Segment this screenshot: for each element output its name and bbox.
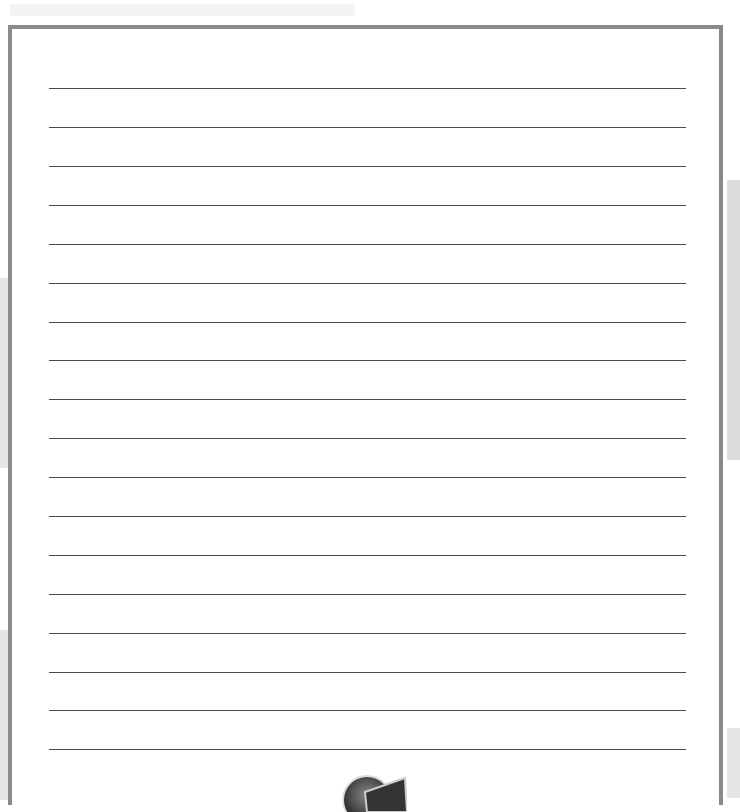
ruled-line <box>49 283 686 284</box>
side-shadow-right-bottom <box>727 728 740 798</box>
ruled-line <box>49 322 686 323</box>
side-shadow-left <box>0 278 8 468</box>
ruled-line <box>49 88 686 89</box>
ruled-line <box>49 477 686 478</box>
ruled-line <box>49 516 686 517</box>
decorative-badge-icon <box>337 772 407 812</box>
side-shadow-left-bottom <box>0 630 8 800</box>
ruled-line <box>49 633 686 634</box>
ruled-line <box>49 399 686 400</box>
ruled-line <box>49 594 686 595</box>
ruled-line <box>49 710 686 711</box>
ruled-line <box>49 438 686 439</box>
ruled-line <box>49 672 686 673</box>
ruled-line <box>49 244 686 245</box>
ruled-line <box>49 555 686 556</box>
paper-frame <box>8 25 723 805</box>
ruled-line <box>49 205 686 206</box>
header-blurred-text <box>10 4 355 16</box>
ruled-line <box>49 127 686 128</box>
ruled-line <box>49 166 686 167</box>
ruled-line <box>49 749 686 750</box>
ruled-line <box>49 360 686 361</box>
side-shadow-right <box>727 180 740 460</box>
